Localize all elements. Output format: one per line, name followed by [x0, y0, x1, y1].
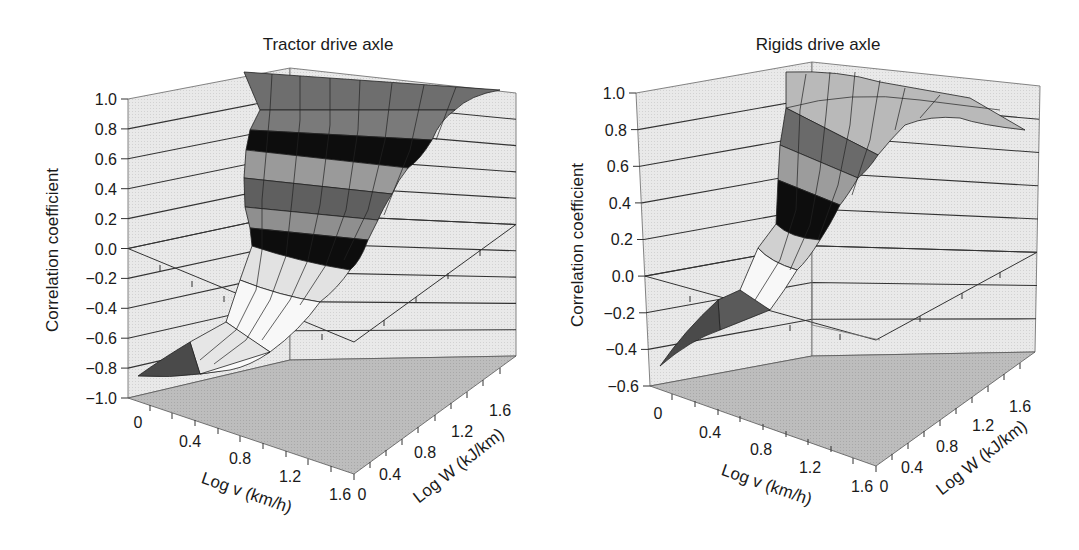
svg-text:0.2: 0.2 [611, 231, 633, 248]
svg-text:−0.4: −0.4 [605, 341, 637, 358]
svg-text:0.4: 0.4 [609, 195, 631, 212]
svg-text:1.0: 1.0 [603, 85, 625, 102]
svg-text:−0.2: −0.2 [603, 305, 635, 322]
svg-text:−0.2: −0.2 [85, 270, 117, 287]
svg-text:0.2: 0.2 [95, 211, 117, 228]
svg-text:−0.4: −0.4 [85, 300, 117, 317]
svg-text:0: 0 [880, 478, 889, 495]
svg-text:0.4: 0.4 [901, 459, 923, 476]
svg-text:0.6: 0.6 [607, 158, 629, 175]
svg-text:0.0: 0.0 [612, 268, 634, 285]
svg-text:0.8: 0.8 [750, 441, 772, 458]
z-tick-labels: 1.0 0.8 0.6 0.4 0.2 0.0 −0.2 −0.4 −0.6 −… [85, 91, 117, 407]
chart-title: Tractor drive axle [263, 35, 394, 54]
svg-text:0.8: 0.8 [605, 122, 627, 139]
z-axis-label: Correlation coefficient [568, 163, 587, 327]
svg-text:−0.8: −0.8 [85, 360, 117, 377]
chart-rigids-drive-axle: Rigids drive axle [540, 0, 1079, 550]
svg-text:0.4: 0.4 [699, 424, 721, 441]
chart-title: Rigids drive axle [756, 35, 881, 54]
svg-text:−0.6: −0.6 [85, 330, 117, 347]
svg-text:0: 0 [358, 486, 367, 503]
svg-text:0.8: 0.8 [95, 121, 117, 138]
svg-text:1.6: 1.6 [329, 486, 351, 503]
svg-text:0: 0 [654, 405, 663, 422]
svg-text:0.4: 0.4 [95, 181, 117, 198]
z-axis-label: Correlation coefficient [43, 168, 62, 332]
svg-text:1.2: 1.2 [279, 468, 301, 485]
svg-text:0.8: 0.8 [229, 450, 251, 467]
tractor-plot-svg: Tractor drive axle [0, 0, 540, 550]
chart-tractor-drive-axle: Tractor drive axle [0, 0, 540, 550]
svg-text:1.2: 1.2 [972, 417, 994, 434]
svg-text:0.8: 0.8 [414, 444, 436, 461]
z-tick-labels: 1.0 0.8 0.6 0.4 0.2 0.0 −0.2 −0.4 −0.6 [603, 85, 639, 395]
svg-text:0.0: 0.0 [95, 241, 117, 258]
svg-text:0.4: 0.4 [379, 466, 401, 483]
svg-text:1.2: 1.2 [799, 459, 821, 476]
svg-text:1.6: 1.6 [489, 402, 511, 419]
svg-text:0: 0 [134, 414, 143, 431]
svg-text:1.6: 1.6 [1009, 398, 1031, 415]
svg-text:−1.0: −1.0 [85, 390, 117, 407]
svg-text:0.8: 0.8 [936, 438, 958, 455]
svg-text:0.6: 0.6 [95, 151, 117, 168]
svg-text:1.6: 1.6 [851, 478, 873, 495]
svg-text:0.4: 0.4 [179, 433, 201, 450]
svg-text:−0.6: −0.6 [607, 378, 639, 395]
rigids-plot-svg: Rigids drive axle [540, 0, 1079, 550]
svg-text:1.2: 1.2 [451, 423, 473, 440]
svg-text:1.0: 1.0 [95, 91, 117, 108]
z-axis-ticks [121, 99, 128, 398]
